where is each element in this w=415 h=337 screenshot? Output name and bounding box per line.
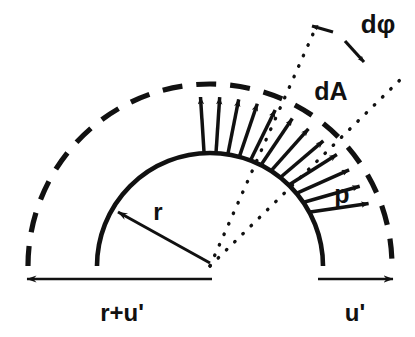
label-radius: r (153, 198, 162, 225)
label-right-dimension: u' (345, 299, 365, 326)
diagram-canvas: r dA dφ p r+u' u' (0, 0, 415, 337)
label-angle-element: dφ (361, 9, 395, 39)
pressure-sphere-diagram: r dA dφ p r+u' u' (0, 0, 415, 337)
label-pressure: p (334, 180, 349, 208)
label-left-dimension: r+u' (100, 299, 144, 326)
label-area-element: dA (314, 77, 347, 105)
